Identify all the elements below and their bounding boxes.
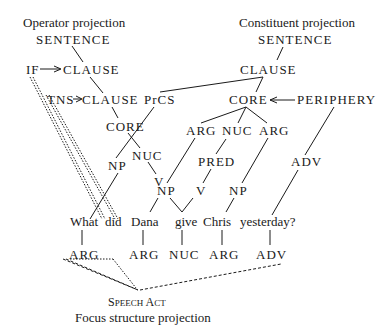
con-nuc: NUC xyxy=(222,123,252,138)
con-sentence: SENTENCE xyxy=(258,32,332,47)
focus-arg-3: ARG xyxy=(209,247,239,262)
operator-projection-title: Operator projection xyxy=(23,15,126,30)
word-give: give xyxy=(175,214,198,229)
con-periphery: PERIPHERY xyxy=(297,92,376,107)
con-np-prcs: NP xyxy=(108,158,127,173)
arrow-icon xyxy=(40,66,61,72)
rrg-diagram: Operator projection Constituent projecti… xyxy=(0,0,388,329)
con-adv: ADV xyxy=(291,154,322,169)
op-nuc: NUC xyxy=(132,148,162,163)
focus-adv: ADV xyxy=(256,247,287,262)
con-clause: CLAUSE xyxy=(240,62,297,77)
focus-nuc: NUC xyxy=(169,247,199,262)
con-core: CORE xyxy=(229,92,268,107)
op-if: IF xyxy=(26,62,40,77)
op-clause-1: CLAUSE xyxy=(63,62,120,77)
con-pred: PRED xyxy=(198,154,235,169)
con-v: V xyxy=(196,183,206,198)
op-sentence: SENTENCE xyxy=(36,32,110,47)
word-chris: Chris xyxy=(203,214,231,229)
con-np-arg1: NP xyxy=(157,183,176,198)
word-dana: Dana xyxy=(131,214,159,229)
op-clause-2: CLAUSE xyxy=(82,92,139,107)
op-tns: TNS xyxy=(47,92,75,107)
con-np-arg2: NP xyxy=(229,183,248,198)
constituent-projection-title: Constituent projection xyxy=(239,15,355,30)
focus-arg-2: ARG xyxy=(129,247,159,262)
con-prcs: PrCS xyxy=(144,92,175,107)
focus-arg-1: ARG xyxy=(69,247,99,262)
speech-act-label: SPEECH ACT xyxy=(108,295,166,309)
con-arg-2: ARG xyxy=(259,123,289,138)
con-arg-1: ARG xyxy=(186,123,216,138)
word-did: did xyxy=(105,214,122,229)
word-what: What xyxy=(70,214,99,229)
arrow-icon xyxy=(270,97,295,103)
focus-projection-title: Focus structure projection xyxy=(75,310,211,325)
word-yesterday: yesterday? xyxy=(240,214,296,229)
